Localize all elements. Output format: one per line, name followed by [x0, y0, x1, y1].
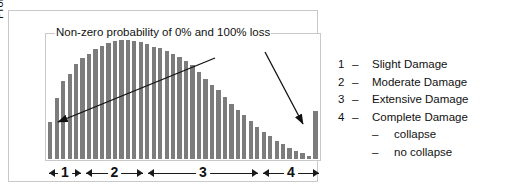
- legend-subitem-no-collapse: – no collapse: [338, 144, 518, 162]
- legend-label: collapse: [394, 126, 518, 144]
- legend-item-2: 2 – Moderate Damage: [338, 74, 518, 92]
- legend-dash: –: [372, 144, 394, 162]
- bar-9: [100, 46, 104, 159]
- x-axis-segment-1: 1: [49, 163, 81, 185]
- bar-11: [113, 41, 117, 159]
- bar-16: [145, 44, 149, 159]
- bar-10: [106, 43, 110, 159]
- bar-23: [190, 65, 194, 159]
- legend-item-3: 3 – Extensive Damage: [338, 91, 518, 109]
- legend-dash: –: [352, 74, 372, 92]
- bar-6: [80, 58, 84, 159]
- legend-label: no collapse: [394, 144, 518, 162]
- legend-label: Moderate Damage: [372, 74, 518, 92]
- legend-dash: –: [352, 56, 372, 74]
- arrow-head-right: [137, 169, 143, 177]
- legend-dash: –: [352, 109, 372, 127]
- bar-29: [229, 104, 233, 159]
- legend-item-1: 1 – Slight Damage: [338, 56, 518, 74]
- arrow-head-right: [313, 169, 319, 177]
- legend-label: Slight Damage: [372, 56, 518, 74]
- bar-35: [268, 136, 272, 159]
- legend-label: Complete Damage: [372, 109, 518, 127]
- bar-3: [61, 81, 65, 159]
- arrow-head-left: [148, 169, 154, 177]
- bar-18: [158, 48, 162, 159]
- legend-item-4: 4 – Complete Damage: [338, 109, 518, 127]
- bar-30: [236, 110, 240, 159]
- legend: 1 – Slight Damage 2 – Moderate Damage 3 …: [338, 56, 518, 161]
- bar-38: [287, 148, 291, 159]
- bar-28: [223, 97, 227, 159]
- bar-12: [119, 40, 123, 159]
- bar-5: [74, 64, 78, 159]
- bar-24: [197, 72, 201, 159]
- arrow-head-left: [263, 169, 269, 177]
- legend-number: 4: [338, 109, 352, 127]
- bar-31: [242, 115, 246, 159]
- bar-series: [47, 33, 319, 159]
- bar-26: [210, 85, 214, 159]
- legend-number: 1: [338, 56, 352, 74]
- bar-41: [307, 156, 311, 159]
- bar-27: [216, 90, 220, 159]
- bar-7: [87, 54, 91, 159]
- bar-34: [262, 132, 266, 159]
- bar-32: [249, 121, 253, 159]
- legend-number: 3: [338, 91, 352, 109]
- bar-36: [275, 141, 279, 159]
- legend-number: 2: [338, 74, 352, 92]
- bar-39: [294, 151, 298, 159]
- bar-14: [132, 41, 136, 159]
- bar-8: [93, 49, 97, 159]
- y-axis-label: Probability: [0, 0, 11, 19]
- legend-label: Extensive Damage: [372, 91, 518, 109]
- legend-subitem-collapse: – collapse: [338, 126, 518, 144]
- bar-19: [165, 51, 169, 159]
- bar-15: [139, 42, 143, 159]
- bar-13: [126, 40, 130, 159]
- x-axis-segment-2: 2: [86, 163, 143, 185]
- bar-33: [255, 127, 259, 159]
- bar-1: [48, 122, 52, 159]
- x-axis: 1 2 3 4: [45, 163, 321, 189]
- x-axis-segment-label: 3: [196, 164, 210, 180]
- bar-22: [184, 61, 188, 160]
- arrow-head-right: [252, 169, 258, 177]
- arrow-head-right: [75, 169, 81, 177]
- bar-2: [55, 98, 59, 159]
- arrow-head-left: [86, 169, 92, 177]
- x-axis-segment-label: 2: [108, 164, 122, 180]
- x-axis-segment-4: 4: [263, 163, 319, 185]
- annotation-label: Non-zero probability of 0% and 100% loss: [55, 26, 271, 38]
- bar-17: [152, 47, 156, 159]
- x-axis-segment-label: 4: [284, 164, 298, 180]
- legend-dash: –: [372, 126, 394, 144]
- bar-25: [203, 79, 207, 159]
- bar-21: [177, 57, 181, 159]
- legend-dash: –: [352, 91, 372, 109]
- bar-42: [313, 111, 317, 159]
- bar-4: [68, 74, 72, 159]
- x-axis-segment-label: 1: [58, 164, 72, 180]
- bar-40: [300, 153, 304, 159]
- plot-area: [45, 33, 321, 161]
- bar-20: [171, 54, 175, 159]
- bar-37: [281, 144, 285, 159]
- arrow-head-left: [49, 169, 55, 177]
- x-axis-segment-3: 3: [148, 163, 258, 185]
